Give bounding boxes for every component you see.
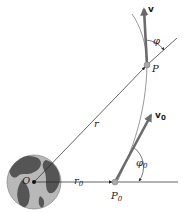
initial-point-marker [112, 179, 118, 185]
initial-point-label: P0 [111, 191, 122, 203]
origin-label: O [22, 176, 30, 186]
velocity-label: v [148, 5, 154, 14]
velocity-arrow [144, 9, 147, 65]
trajectory-curve [118, 14, 147, 180]
radial-extension-line [147, 38, 177, 65]
point-marker [144, 62, 150, 68]
angle-phi-label: φ [153, 36, 160, 46]
point-label: P [152, 64, 159, 74]
angle-phi0-label: φ0 [136, 158, 147, 170]
initial-velocity-arrow [115, 115, 151, 182]
origin-point [32, 180, 36, 184]
radius-line [34, 67, 145, 182]
initial-velocity-label: v0 [155, 111, 166, 122]
radius-label: r [94, 119, 99, 129]
initial-radius-label: r0 [74, 176, 83, 188]
